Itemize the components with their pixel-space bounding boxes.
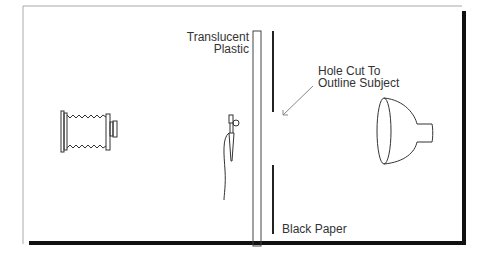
translucent-plastic	[253, 31, 261, 246]
small-light-icon	[224, 115, 239, 200]
black-paper-label: Black Paper	[282, 223, 347, 235]
reflector-light-icon	[377, 98, 433, 164]
camera-icon	[61, 111, 117, 152]
plastic-label-line2: Plastic	[180, 43, 249, 55]
plastic-label: Translucent Plastic	[180, 31, 249, 55]
arrow-icon	[283, 86, 313, 115]
hole-label-line2: Outline Subject	[318, 77, 399, 89]
hole-label: Hole Cut To Outline Subject	[318, 65, 399, 89]
